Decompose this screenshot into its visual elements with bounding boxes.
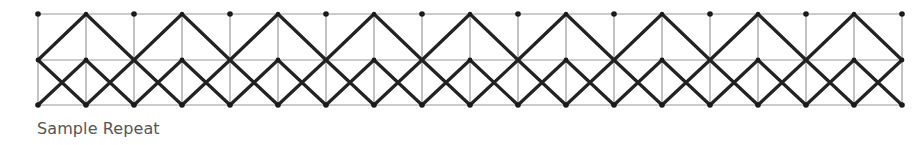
bottom-node-dot xyxy=(659,102,665,108)
bottom-node-dot xyxy=(851,102,857,108)
top-node-dot xyxy=(756,12,760,16)
top-node-dot xyxy=(707,11,713,17)
top-node-dot xyxy=(276,12,280,16)
middle-node-dot xyxy=(852,58,857,63)
top-node-dot xyxy=(611,11,617,17)
top-node-dot xyxy=(660,12,664,16)
bottom-node-dot xyxy=(371,102,377,108)
middle-node-dot xyxy=(180,58,185,63)
pattern-line xyxy=(662,14,710,60)
middle-node-dot xyxy=(564,58,569,63)
top-node-dot xyxy=(131,11,137,17)
bottom-node-dot xyxy=(755,102,761,108)
bottom-node-dot xyxy=(707,102,713,108)
pattern-line xyxy=(758,14,806,60)
diagram-caption: Sample Repeat xyxy=(37,119,160,138)
top-node-dot xyxy=(372,12,376,16)
bottom-node-dot xyxy=(323,102,329,108)
bottom-node-dot xyxy=(227,102,233,108)
bottom-node-dot xyxy=(179,102,185,108)
pattern-line xyxy=(374,14,422,60)
top-node-dot xyxy=(84,12,88,16)
top-node-dot xyxy=(564,12,568,16)
bottom-node-dot xyxy=(131,102,137,108)
middle-node-dot xyxy=(84,58,89,63)
pattern-line xyxy=(614,14,662,60)
bottom-node-dot xyxy=(515,102,521,108)
pattern-line xyxy=(86,14,134,60)
pattern-line xyxy=(854,14,902,60)
middle-node-dot xyxy=(36,58,41,63)
middle-node-dot xyxy=(756,58,761,63)
bottom-node-dot xyxy=(35,102,41,108)
bottom-node-dot xyxy=(275,102,281,108)
pattern-line xyxy=(566,14,614,60)
bottom-node-dot xyxy=(83,102,89,108)
pattern-line xyxy=(422,14,470,60)
middle-node-dot xyxy=(276,58,281,63)
top-node-dot xyxy=(323,11,329,17)
middle-node-dot xyxy=(372,58,377,63)
top-node-dot xyxy=(35,11,41,17)
bottom-node-dot xyxy=(899,102,905,108)
bottom-node-dot xyxy=(419,102,425,108)
top-node-dot xyxy=(468,12,472,16)
pattern-line xyxy=(278,14,326,60)
bottom-node-dot xyxy=(611,102,617,108)
top-node-dot xyxy=(515,11,521,17)
pattern-line xyxy=(518,14,566,60)
pattern-line xyxy=(710,14,758,60)
bottom-node-dot xyxy=(563,102,569,108)
top-node-dot xyxy=(899,11,905,17)
top-node-dot xyxy=(803,11,809,17)
top-node-dot xyxy=(227,11,233,17)
pattern-line xyxy=(326,14,374,60)
pattern-line xyxy=(230,14,278,60)
top-node-dot xyxy=(852,12,856,16)
pattern-line xyxy=(134,14,182,60)
bottom-node-dot xyxy=(803,102,809,108)
sample-repeat-diagram xyxy=(0,0,922,118)
pattern-line xyxy=(806,14,854,60)
top-node-dot xyxy=(180,12,184,16)
pattern-line xyxy=(38,14,86,60)
middle-node-dot xyxy=(468,58,473,63)
top-node-dot xyxy=(419,11,425,17)
middle-node-dot xyxy=(900,58,905,63)
pattern-line xyxy=(470,14,518,60)
pattern-line xyxy=(182,14,230,60)
middle-node-dot xyxy=(660,58,665,63)
bottom-node-dot xyxy=(467,102,473,108)
